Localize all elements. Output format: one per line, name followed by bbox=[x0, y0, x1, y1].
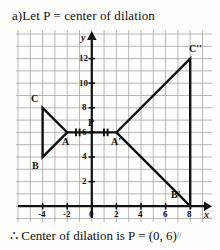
grid-lines bbox=[16, 30, 212, 222]
vertex-label-b: B bbox=[32, 161, 39, 171]
center-point-p bbox=[90, 131, 94, 135]
coordinate-plane: C B A P A' B' C'' y x 12 10 8 6 4 2 -4 -… bbox=[16, 30, 212, 222]
worksheet-page: a)Let P = center of dilation bbox=[0, 0, 220, 250]
x-axis-label: x bbox=[204, 210, 209, 220]
y-tick-4: 4 bbox=[82, 152, 87, 161]
vertex-label-a-image: A' bbox=[111, 137, 121, 147]
x-tick-6: 6 bbox=[163, 210, 168, 219]
vertex-label-p: P bbox=[88, 118, 94, 128]
graph-svg bbox=[16, 30, 212, 222]
x-tick-2: 2 bbox=[114, 210, 119, 219]
x-tick-neg2: -2 bbox=[63, 210, 71, 219]
y-tick-12: 12 bbox=[79, 54, 88, 63]
conclusion-text: ∴ Center of dilation is P = (0, 6) bbox=[10, 228, 177, 243]
vertex-label-c: C bbox=[31, 94, 38, 104]
vertex-label-a: A bbox=[62, 137, 69, 147]
y-axis-label: y bbox=[81, 33, 85, 43]
y-tick-10: 10 bbox=[79, 79, 88, 88]
vertex-label-b-image: B' bbox=[171, 190, 180, 200]
vertex-label-c-image: C'' bbox=[189, 44, 202, 54]
conclusion-statement: ∴ Center of dilation is P = (0, 6)// bbox=[10, 228, 181, 244]
x-tick-0: 0 bbox=[89, 210, 94, 219]
y-tick-8: 8 bbox=[82, 103, 87, 112]
y-tick-6: 6 bbox=[82, 128, 87, 137]
x-tick-4: 4 bbox=[138, 210, 143, 219]
x-tick-neg4: -4 bbox=[38, 210, 46, 219]
conclusion-tail-mark: // bbox=[177, 231, 181, 240]
x-tick-8: 8 bbox=[187, 210, 192, 219]
y-tick-2: 2 bbox=[82, 177, 87, 186]
page-title: a)Let P = center of dilation bbox=[12, 8, 155, 24]
